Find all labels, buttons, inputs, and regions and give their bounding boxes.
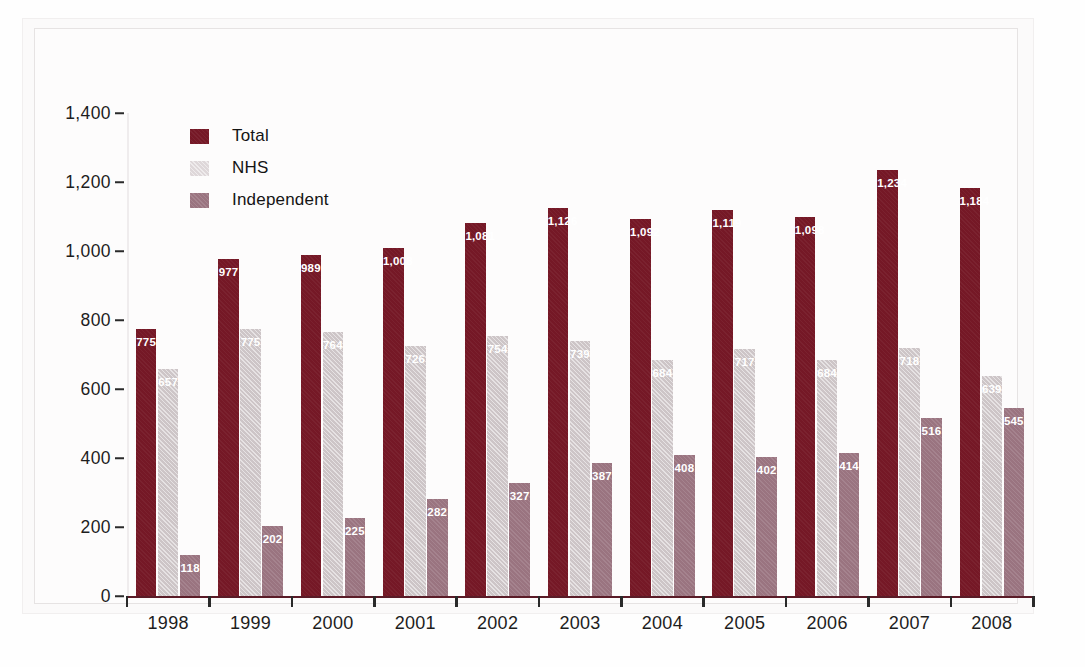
y-tick-label: 0 <box>101 586 127 607</box>
x-axis-label-2004: 2004 <box>642 613 683 634</box>
bar-total-2007: 1,234 <box>877 170 898 596</box>
y-tick-mark <box>115 388 124 391</box>
x-tick-mark <box>867 596 870 607</box>
bar-nhs-2002: 754 <box>487 336 508 596</box>
x-tick-mark <box>455 596 458 607</box>
x-tick-mark <box>1032 596 1035 607</box>
legend-swatch-independent-icon <box>190 193 209 208</box>
legend-swatch-total-icon <box>190 129 209 144</box>
bar-value-label: 764 <box>323 339 344 351</box>
bar-value-label: 739 <box>570 348 591 360</box>
y-tick-label: 1,000 <box>65 241 127 262</box>
bar-value-label: 545 <box>1004 415 1025 427</box>
y-axis-line <box>127 113 129 596</box>
bar-independent-2006: 414 <box>839 453 860 596</box>
y-tick-mark <box>115 457 124 460</box>
x-tick-mark <box>126 596 129 607</box>
bar-value-label: 1,008 <box>383 255 404 267</box>
x-tick-mark <box>620 596 623 607</box>
bar-value-label: 516 <box>921 425 942 437</box>
bar-nhs-2001: 726 <box>405 346 426 596</box>
chart-legend: TotalNHSIndependent <box>190 125 329 221</box>
x-axis-label-1999: 1999 <box>230 613 271 634</box>
x-tick-mark <box>208 596 211 607</box>
bar-independent-2008: 545 <box>1004 408 1025 596</box>
bar-total-2001: 1,008 <box>383 248 404 596</box>
bar-total-2002: 1,081 <box>465 223 486 596</box>
bar-total-2003: 1,126 <box>548 208 569 596</box>
y-tick-label: 400 <box>81 448 127 469</box>
x-axis-label-2007: 2007 <box>889 613 930 634</box>
bar-nhs-2003: 739 <box>570 341 591 596</box>
bar-value-label: 202 <box>262 533 283 545</box>
bar-value-label: 754 <box>487 343 508 355</box>
legend-item-nhs[interactable]: NHS <box>190 157 329 179</box>
x-axis-label-2005: 2005 <box>724 613 765 634</box>
bar-value-label: 717 <box>734 356 755 368</box>
bar-value-label: 775 <box>136 336 157 348</box>
y-tick-mark <box>115 250 124 253</box>
bar-nhs-1999: 775 <box>240 329 261 596</box>
x-tick-mark <box>702 596 705 607</box>
bar-value-label: 387 <box>592 470 613 482</box>
x-axis-label-2000: 2000 <box>312 613 353 634</box>
bar-value-label: 282 <box>427 506 448 518</box>
x-axis-label-1998: 1998 <box>148 613 189 634</box>
bar-independent-2002: 327 <box>509 483 530 596</box>
chart-frame: 02004006008001,0001,2001,400 19981999200… <box>34 28 1018 604</box>
bar-value-label: 408 <box>674 462 695 474</box>
bar-value-label: 1,119 <box>712 217 733 229</box>
x-axis-label-2002: 2002 <box>477 613 518 634</box>
bar-nhs-2006: 684 <box>817 360 838 596</box>
bar-value-label: 639 <box>982 383 1003 395</box>
bar-independent-2007: 516 <box>921 418 942 596</box>
bar-value-label: 726 <box>405 353 426 365</box>
bar-total-2005: 1,119 <box>712 210 733 596</box>
bar-independent-2003: 387 <box>592 463 613 597</box>
bar-value-label: 977 <box>218 266 239 278</box>
bar-total-1998: 775 <box>136 329 157 596</box>
bar-total-1999: 977 <box>218 259 239 596</box>
bar-value-label: 684 <box>652 367 673 379</box>
x-tick-mark <box>291 596 294 607</box>
y-tick-label: 600 <box>81 379 127 400</box>
bar-nhs-1998: 657 <box>158 369 179 596</box>
bar-value-label: 414 <box>839 460 860 472</box>
x-tick-mark <box>538 596 541 607</box>
x-tick-mark <box>373 596 376 607</box>
bar-value-label: 1,092 <box>630 226 651 238</box>
x-axis-label-2003: 2003 <box>559 613 600 634</box>
bar-nhs-2005: 717 <box>734 349 755 596</box>
bar-independent-1998: 118 <box>180 555 201 596</box>
bar-total-2006: 1,098 <box>795 217 816 596</box>
legend-item-independent[interactable]: Independent <box>190 189 329 211</box>
bar-value-label: 118 <box>180 562 201 574</box>
y-tick-mark <box>115 319 124 322</box>
bar-value-label: 1,081 <box>465 230 486 242</box>
bar-value-label: 225 <box>345 525 366 537</box>
y-tick-label: 1,200 <box>65 172 127 193</box>
bar-value-label: 402 <box>756 464 777 476</box>
y-tick-mark <box>115 181 124 184</box>
y-tick-label: 1,400 <box>65 103 127 124</box>
legend-item-total[interactable]: Total <box>190 125 329 147</box>
y-tick-label: 800 <box>81 310 127 331</box>
x-axis-line <box>127 596 1033 598</box>
bar-independent-1999: 202 <box>262 526 283 596</box>
bar-nhs-2007: 718 <box>899 348 920 596</box>
bar-value-label: 1,184 <box>960 195 981 207</box>
bar-independent-2001: 282 <box>427 499 448 596</box>
x-axis-label-2008: 2008 <box>971 613 1012 634</box>
bar-value-label: 327 <box>509 490 530 502</box>
bar-value-label: 684 <box>817 367 838 379</box>
bar-independent-2004: 408 <box>674 455 695 596</box>
figure-page: 02004006008001,0001,2001,400 19981999200… <box>0 0 1085 667</box>
x-tick-mark <box>950 596 953 607</box>
y-tick-mark <box>115 526 124 529</box>
bar-value-label: 775 <box>240 336 261 348</box>
bar-independent-2000: 225 <box>345 518 366 596</box>
bar-total-2000: 989 <box>301 255 322 596</box>
legend-swatch-nhs-icon <box>190 161 209 176</box>
bar-total-2004: 1,092 <box>630 219 651 596</box>
y-tick-label: 200 <box>81 517 127 538</box>
